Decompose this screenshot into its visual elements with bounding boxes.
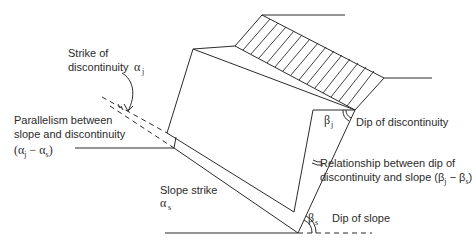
alpha-j-symbol: α <box>134 60 141 74</box>
relationship-label-line2: discontinuity and slope (βj − βs) <box>320 171 472 186</box>
alpha-s-symbol: α <box>160 196 167 210</box>
parallelism-label-line2: slope and discontinuity <box>14 128 126 140</box>
parallelism-label-line1: Parallelism between <box>14 114 112 126</box>
alpha-j-subscript: j <box>141 67 144 76</box>
dip-of-slope-label: Dip of slope <box>332 212 390 224</box>
rock-slope-discontinuity-diagram: Strike of discontinuity α j Parallelism … <box>0 0 476 246</box>
relationship-label-line1: Relationship between dip of <box>320 157 456 169</box>
strike-label-line1: Strike of <box>68 47 109 59</box>
beta-j-arc-1 <box>346 110 351 118</box>
beta-s-symbol: β <box>308 211 314 225</box>
beta-j-symbol: β <box>324 113 330 127</box>
left-ledge-line <box>193 46 235 49</box>
beta-s-subscript: s <box>315 218 318 227</box>
hatched-upper-slope <box>235 15 384 110</box>
alpha-s-subscript: s <box>168 203 171 212</box>
strike-dashed-line-lower <box>110 106 174 148</box>
slab-tick <box>174 137 176 148</box>
slope-strike-label: Slope strike <box>160 184 217 196</box>
dip-of-discontinuity-label: Dip of discontinuity <box>356 116 449 128</box>
beta-j-subscript: j <box>330 120 333 129</box>
arrow-head-icon <box>124 104 133 111</box>
strike-label-line2: discontinuity <box>68 61 129 73</box>
strike-arrow <box>122 73 133 111</box>
parallelism-formula: (αj − αs) <box>14 143 53 159</box>
